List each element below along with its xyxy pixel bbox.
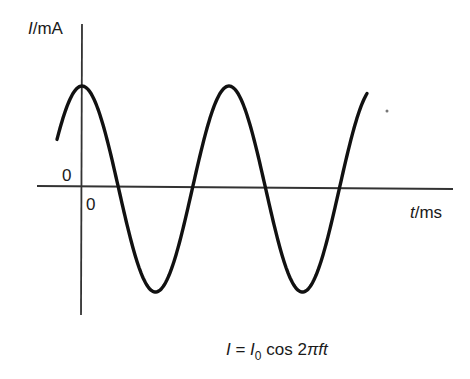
- y-origin-label: 0: [62, 166, 71, 185]
- y-axis: [81, 24, 82, 315]
- x-axis-label: t/ms: [410, 203, 442, 222]
- x-origin-label: 0: [86, 195, 95, 214]
- stray-dot: [386, 110, 389, 113]
- chart-canvas: I/mA t/ms 0 0 I = I0 cos 2πft: [0, 0, 470, 379]
- y-axis-label: I/mA: [28, 19, 64, 38]
- formula-caption: I = I0 cos 2πft: [226, 340, 329, 363]
- x-axis: [37, 186, 453, 189]
- cosine-wave-curve: [57, 86, 367, 292]
